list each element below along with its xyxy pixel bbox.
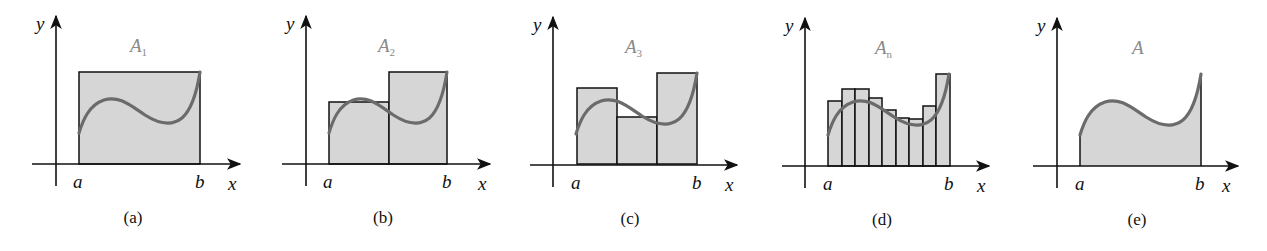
y-axis-label: y <box>34 13 45 34</box>
caption: (b) <box>373 208 393 227</box>
caption: (d) <box>872 210 892 229</box>
x-axis-label: x <box>724 174 734 195</box>
panel-c: y a b x A3 (c) <box>530 14 737 228</box>
panel-title: An <box>873 37 893 60</box>
x-axis-label: x <box>227 173 237 194</box>
panel-title: A3 <box>623 36 643 59</box>
panel-title: A <box>1130 37 1144 58</box>
a-label: a <box>823 173 833 194</box>
x-axis-label: x <box>1221 175 1231 196</box>
x-axis-label: x <box>976 175 986 196</box>
rectangle-2 <box>617 117 657 164</box>
y-axis-label: y <box>1035 15 1046 36</box>
panel-a: y a b x A1 (a) <box>32 13 240 227</box>
a-label: a <box>1075 173 1085 194</box>
y-axis-label: y <box>531 14 542 35</box>
panel-b: y a b x A2 (b) <box>282 13 490 227</box>
b-label: b <box>195 171 205 192</box>
b-label: b <box>692 172 702 193</box>
caption: (e) <box>1128 210 1147 229</box>
panel-title: A1 <box>128 35 147 58</box>
caption: (c) <box>621 209 640 228</box>
rectangle-3 <box>657 73 697 164</box>
panel-title: A2 <box>376 35 395 58</box>
y-axis-label: y <box>783 15 794 36</box>
b-label: b <box>944 173 954 194</box>
a-label: a <box>73 171 83 192</box>
caption: (a) <box>124 208 143 227</box>
a-label: a <box>323 171 333 192</box>
y-axis-label: y <box>284 13 295 34</box>
riemann-sum-figure: y a b x A1 (a) y a b x A2 (b) y a b x A3… <box>0 0 1267 251</box>
panel-e: y a b x A (e) <box>1033 15 1238 229</box>
x-axis-label: x <box>477 173 487 194</box>
a-label: a <box>571 172 581 193</box>
b-label: b <box>442 171 452 192</box>
b-label: b <box>1195 173 1205 194</box>
panel-d: y a b x An (d) <box>782 15 989 229</box>
